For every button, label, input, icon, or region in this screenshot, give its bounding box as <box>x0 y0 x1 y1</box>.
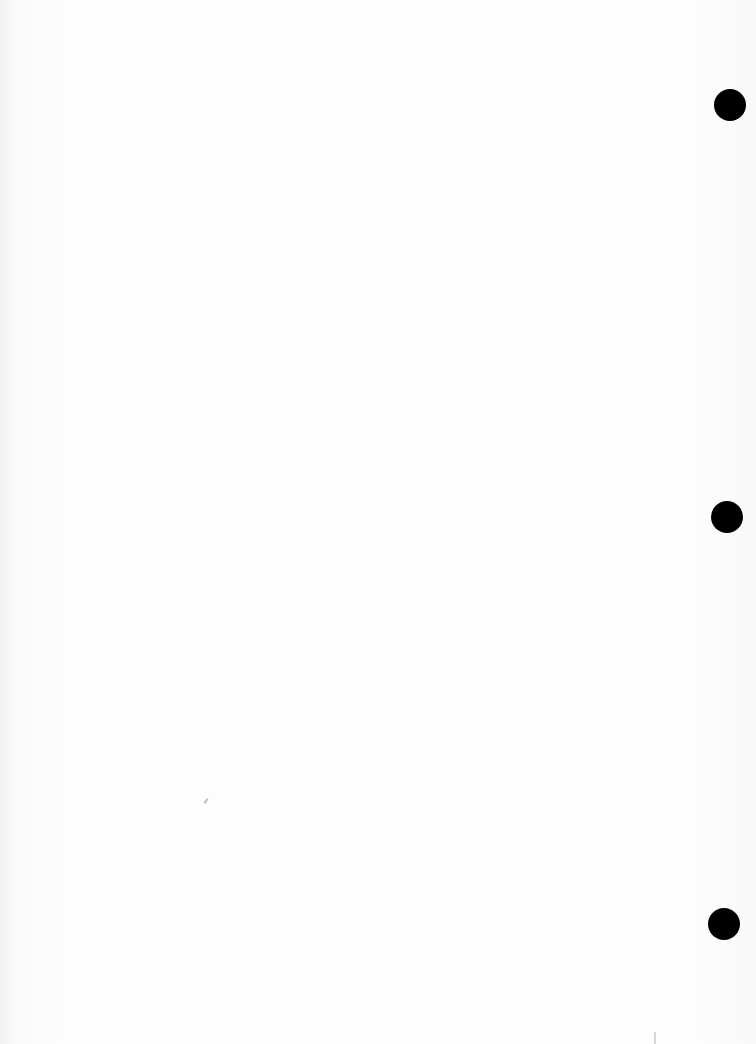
punch-hole-top <box>714 89 746 121</box>
page-edge-mark <box>654 1032 656 1044</box>
punch-hole-bottom <box>708 908 740 940</box>
speck-mark <box>204 798 209 804</box>
punch-hole-middle <box>711 501 743 533</box>
scanned-page <box>0 0 756 1044</box>
